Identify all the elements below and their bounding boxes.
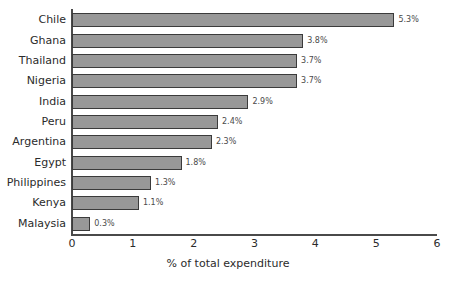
bar: [72, 54, 297, 68]
bar: [72, 74, 297, 88]
bar-row: 1.1%: [72, 193, 437, 213]
bar-value-label: 1.3%: [155, 179, 175, 187]
bar-row: 3.7%: [72, 71, 437, 91]
x-axis-title: % of total expenditure: [0, 258, 456, 269]
bar-value-label: 0.3%: [94, 220, 114, 228]
x-tick-label: 1: [113, 238, 153, 249]
bar-value-label: 3.7%: [301, 77, 321, 85]
bar: [72, 135, 212, 149]
bar-row: 3.7%: [72, 51, 437, 71]
bar: [72, 196, 139, 210]
bar: [72, 13, 394, 27]
category-label: Thailand: [0, 55, 66, 66]
bar-row: 1.3%: [72, 173, 437, 193]
bar: [72, 115, 218, 129]
bar-row: 2.9%: [72, 91, 437, 111]
bar-value-label: 2.3%: [216, 138, 236, 146]
bar-value-label: 2.9%: [252, 98, 272, 106]
x-tick-label: 5: [356, 238, 396, 249]
category-label: Peru: [0, 116, 66, 127]
category-label: India: [0, 96, 66, 107]
bar: [72, 217, 90, 231]
x-tick-label: 4: [295, 238, 335, 249]
bar-row: 1.8%: [72, 153, 437, 173]
category-label: Egypt: [0, 157, 66, 168]
category-label: Argentina: [0, 136, 66, 147]
bar: [72, 95, 248, 109]
bar-row: 3.8%: [72, 30, 437, 50]
category-label: Ghana: [0, 35, 66, 46]
category-label: Nigeria: [0, 75, 66, 86]
x-tick-label: 2: [174, 238, 214, 249]
bar: [72, 176, 151, 190]
x-tick-label: 0: [52, 238, 92, 249]
bar: [72, 34, 303, 48]
bar-row: 2.3%: [72, 132, 437, 152]
bar-value-label: 1.8%: [186, 159, 206, 167]
category-label: Philippines: [0, 177, 66, 188]
bar-value-label: 2.4%: [222, 118, 242, 126]
bar-value-label: 1.1%: [143, 199, 163, 207]
bar-row: 0.3%: [72, 214, 437, 234]
category-label: Kenya: [0, 197, 66, 208]
x-tick-label: 3: [235, 238, 275, 249]
category-label: Chile: [0, 14, 66, 25]
bar-chart: ChileGhanaThailandNigeriaIndiaPeruArgent…: [0, 0, 456, 282]
bar-row: 5.3%: [72, 10, 437, 30]
x-axis-line: [71, 234, 437, 236]
bar-value-label: 3.7%: [301, 57, 321, 65]
x-tick-label: 6: [417, 238, 456, 249]
bar-value-label: 3.8%: [307, 37, 327, 45]
bar-value-label: 5.3%: [398, 16, 418, 24]
bar-row: 2.4%: [72, 112, 437, 132]
category-label: Malaysia: [0, 218, 66, 229]
bar: [72, 156, 182, 170]
